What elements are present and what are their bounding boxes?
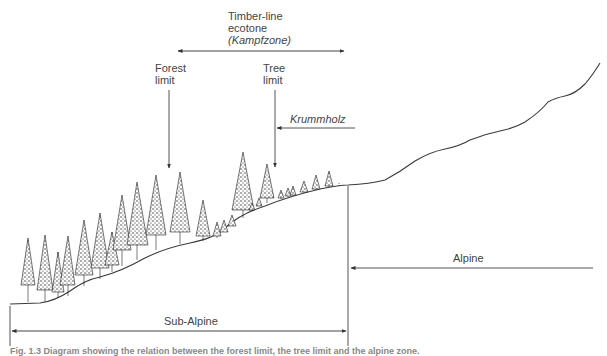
alpine-label: Alpine: [453, 252, 484, 264]
forest-limit-line1: Forest: [155, 62, 186, 74]
forest-trees: [21, 152, 339, 302]
forest-limit-line2: limit: [155, 74, 186, 86]
ecotone-label-line2: ecotone: [228, 22, 291, 34]
forest-limit-label: Forest limit: [155, 62, 186, 86]
ecotone-label: Timber-line ecotone (Kampfzone): [228, 10, 291, 46]
krummholz-label: Krummholz: [290, 113, 346, 125]
tree-limit-line1: Tree: [263, 62, 285, 74]
ecotone-label-line1: Timber-line: [228, 10, 291, 22]
ecotone-label-line3: (Kampfzone): [228, 34, 291, 46]
sub-alpine-label: Sub-Alpine: [164, 315, 218, 327]
kampfzone-text: (Kampfzone): [228, 34, 291, 46]
figure-caption: Fig. 1.3 Diagram showing the relation be…: [10, 346, 420, 356]
tree-limit-label: Tree limit: [263, 62, 285, 86]
tree-limit-line2: limit: [263, 74, 285, 86]
